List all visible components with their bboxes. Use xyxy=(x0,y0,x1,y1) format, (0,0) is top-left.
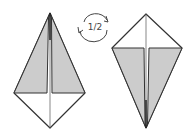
left-flap xyxy=(14,13,50,93)
kite-before xyxy=(14,13,85,128)
right-flap xyxy=(146,48,182,128)
rotate-half-icon: 1/2 xyxy=(78,14,108,42)
left-flap xyxy=(112,48,146,128)
right-flap xyxy=(50,13,85,93)
kite-after xyxy=(112,14,182,128)
rotation-label: 1/2 xyxy=(88,22,102,32)
origami-diagram: 1/2 xyxy=(0,0,193,135)
